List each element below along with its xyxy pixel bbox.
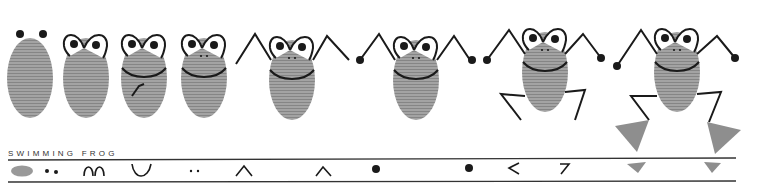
caret-symbol-icon-2 xyxy=(316,167,331,176)
oval-symbol-icon xyxy=(11,166,33,177)
triangle-symbol-icon-2 xyxy=(704,162,721,173)
frog-step-3 xyxy=(121,35,167,118)
frog-step-1 xyxy=(7,30,53,118)
dot-symbol-icon xyxy=(372,165,380,173)
two-dots-symbol-icon xyxy=(45,169,49,173)
caret-symbol-icon xyxy=(236,166,252,176)
frog-step-8 xyxy=(613,29,741,154)
step-symbols xyxy=(11,162,721,177)
frog-step-4 xyxy=(181,35,227,118)
seven-symbol-icon xyxy=(560,164,569,174)
smile-curve-symbol-icon xyxy=(132,164,151,176)
frog-step-2 xyxy=(63,35,109,118)
triangle-symbol-icon xyxy=(627,162,646,173)
less-than-symbol-icon xyxy=(509,163,519,174)
two-small-dots-symbol-icon xyxy=(190,170,192,172)
frog-step-5 xyxy=(236,34,349,120)
drawing-canvas xyxy=(0,0,770,190)
strip-top-line xyxy=(8,158,736,160)
two-arches-symbol-icon xyxy=(84,167,104,176)
page-title: SWIMMING FROG xyxy=(8,149,118,158)
strip-bottom-line xyxy=(8,181,736,182)
dot-symbol-icon-2 xyxy=(465,164,473,172)
frog-step-6 xyxy=(356,34,476,120)
frog-step-7 xyxy=(483,29,605,120)
